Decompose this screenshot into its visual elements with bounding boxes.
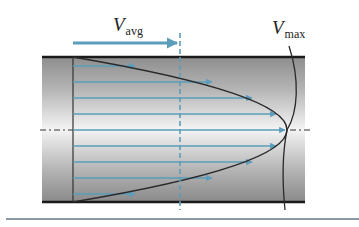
vavg-subscript: avg [126, 24, 143, 38]
vmax-subscript: max [285, 27, 306, 41]
vavg-symbol: V [113, 14, 125, 35]
vavg-label: Vavg [113, 14, 143, 36]
vmax-label: Vmax [272, 17, 305, 39]
bottom-rule [6, 218, 359, 220]
vmax-symbol: V [272, 17, 284, 38]
